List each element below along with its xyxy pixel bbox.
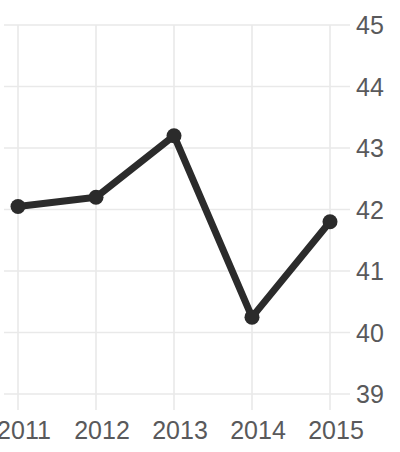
x-axis-tick-label: 2014 (219, 418, 297, 443)
y-axis-tick-label: 39 (356, 382, 400, 407)
data-point-marker (245, 310, 260, 325)
y-axis-tick-label: 41 (356, 259, 400, 284)
y-axis-tick-label: 42 (356, 198, 400, 223)
line-chart: Freedom Trend 39404142434445 20112012201… (0, 0, 400, 452)
y-axis-tick-label: 45 (356, 13, 400, 38)
y-axis-tick-label: 40 (356, 321, 400, 346)
plot-canvas (0, 0, 400, 452)
data-point-marker (89, 190, 104, 205)
x-axis-tick-label: 2012 (63, 418, 141, 443)
data-point-marker (167, 128, 182, 143)
data-point-marker (323, 214, 338, 229)
x-axis-tick-label: 2015 (297, 418, 375, 443)
y-axis-tick-label: 44 (356, 75, 400, 100)
data-point-marker (11, 199, 26, 214)
x-axis-tick-label: 2011 (0, 418, 63, 443)
plot-area (0, 0, 400, 452)
y-axis-tick-label: 43 (356, 136, 400, 161)
x-axis-tick-label: 2013 (141, 418, 219, 443)
